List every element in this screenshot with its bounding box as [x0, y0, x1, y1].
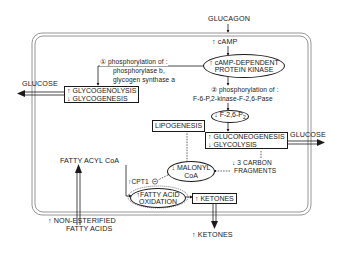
glycogenolysis-label: ↑ GLYCOGENOLYSIS	[67, 87, 136, 95]
step1-phosphorylation-label: ① phosphorylation of :	[100, 58, 168, 66]
step2-bifunctional-enzyme: F-6-P,2-kinase-F-2,6-Pase	[193, 95, 273, 103]
fatty-acid-oxidation-ellipse: ↑FATTY ACID OXIDATION	[130, 188, 186, 208]
malonyl-coa-ellipse: ↓ MALONYL CoA	[167, 161, 215, 182]
ketones-box: ↑ KETONES	[192, 193, 237, 204]
malonyl-line2: CoA	[184, 172, 198, 180]
kinase-line1: ↑ cAMP-DEPENDENT	[209, 59, 279, 67]
cpt1-label: ↑CPT1	[128, 178, 149, 186]
glucagon-liver-metabolism-diagram: GLUCAGON ↑ cAMP ↑ cAMP-DEPENDENT PROTEIN…	[0, 0, 339, 260]
f26p2-ellipse: ↓ F-2,6-P2	[211, 110, 249, 123]
f26p2-label: ↓ F-2,6-P	[214, 111, 243, 118]
glucose-out-left-arrow	[17, 90, 64, 97]
step2-phosphorylation-label: ② phosphorylation of :	[211, 86, 279, 94]
glycogen-metabolism-box: ↑ GLYCOGENOLYSIS ↓ GLYCOGENESIS	[64, 86, 139, 103]
glucose-left-label: GLUCOSE	[22, 80, 58, 88]
three-carbon-fragments-line2: FRAGMENTS	[234, 167, 276, 175]
glucagon-label: GLUCAGON	[208, 15, 250, 23]
camp-label: ↑ cAMP	[212, 38, 237, 46]
glycogenesis-label: ↓ GLYCOGENESIS	[67, 95, 136, 103]
lipogenesis-box: LIPOGENESIS	[152, 120, 205, 132]
glycolysis-label: ↓ GLYCOLYSIS	[208, 141, 285, 149]
camp-dependent-protein-kinase: ↑ cAMP-DEPENDENT PROTEIN KINASE	[203, 54, 285, 78]
step1-glycogen-synthase: glycogen synthase a	[113, 76, 175, 84]
fao-line2: OXIDATION	[139, 198, 177, 206]
f26p2-subscript: 2	[243, 114, 246, 120]
fao-line1: ↑FATTY ACID	[137, 191, 180, 199]
glucose-out-right-arrow	[288, 139, 325, 146]
glucose-right-label: GLUCOSE	[290, 131, 326, 139]
three-carbon-fragments-line1: ↓ 3 CARBON	[232, 159, 272, 167]
fatty-acyl-coa-label: FATTY ACYL CoA	[60, 157, 119, 165]
kinase-line2: PROTEIN KINASE	[215, 66, 274, 74]
ketones-out-arrow	[211, 204, 218, 229]
gluconeogenesis-box: ↑ GLUCONEOGENESIS ↓ GLYCOLYSIS	[205, 132, 288, 149]
step1-phosphorylase: phosphorylase b,	[113, 67, 165, 75]
nefa-label-line2: FATTY ACIDS	[66, 225, 112, 233]
malonyl-line1: ↓ MALONYL	[172, 164, 211, 172]
ketones-output-label: ↑ KETONES	[192, 231, 233, 239]
gluconeogenesis-label: ↑ GLUCONEOGENESIS	[208, 133, 285, 141]
